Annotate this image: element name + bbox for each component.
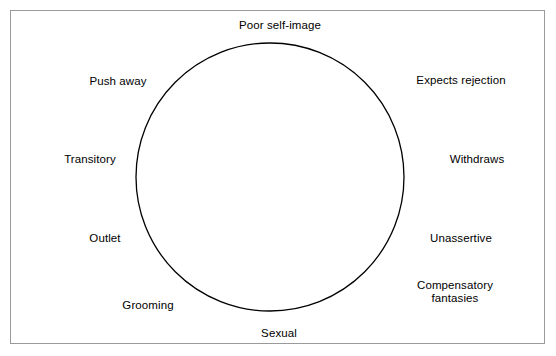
label-unassertive: Unassertive — [430, 232, 492, 245]
label-transitory: Transitory — [64, 153, 116, 166]
label-push-away: Push away — [89, 75, 146, 88]
label-poor-self-image: Poor self-image — [239, 19, 321, 32]
label-expects-rejection: Expects rejection — [416, 74, 505, 87]
label-grooming: Grooming — [122, 299, 173, 312]
label-outlet: Outlet — [89, 232, 120, 245]
label-withdraws: Withdraws — [450, 153, 505, 166]
label-compensatory-fantasies: Compensatory fantasies — [400, 279, 510, 305]
label-sexual: Sexual — [261, 327, 297, 340]
cycle-diagram-figure: Poor self-image Expects rejection Withdr… — [0, 0, 556, 356]
